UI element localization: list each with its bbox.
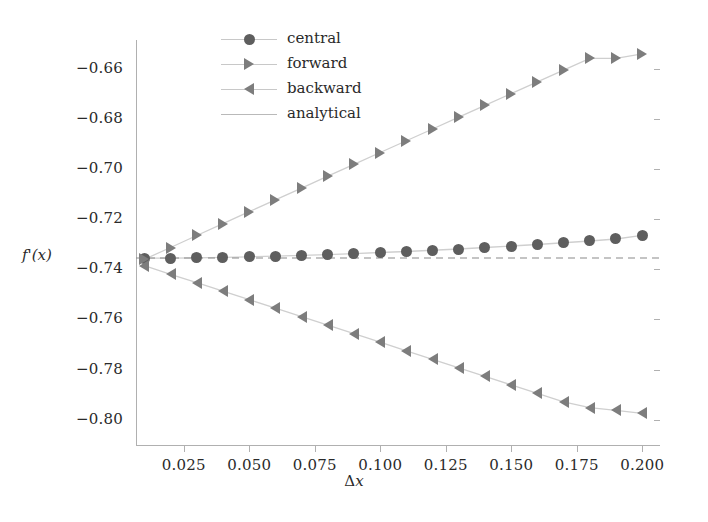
y-tick-label: −0.80: [55, 410, 123, 428]
data-point-central: [270, 251, 281, 262]
x-tick: [511, 446, 512, 452]
data-point-backward: [297, 311, 307, 323]
x-tick: [577, 446, 578, 452]
y-tick-label: −0.66: [55, 59, 123, 77]
data-point-backward: [428, 353, 438, 365]
data-point-forward: [585, 52, 595, 64]
y-tick-label: −0.78: [55, 360, 123, 378]
data-point-backward: [166, 268, 176, 280]
data-point-forward: [323, 170, 333, 182]
data-point-backward: [270, 302, 280, 314]
data-point-backward: [139, 260, 149, 272]
data-point-forward: [192, 229, 202, 241]
data-point-forward: [506, 88, 516, 100]
x-tick: [446, 446, 447, 452]
data-point-forward: [166, 242, 176, 254]
data-point-backward: [637, 407, 647, 419]
y-tick-label: −0.74: [55, 259, 123, 277]
data-point-backward: [323, 319, 333, 331]
x-axis-label-delta: Δ: [344, 472, 355, 490]
x-tick: [380, 446, 381, 452]
x-tick: [249, 446, 250, 452]
data-point-backward: [480, 370, 490, 382]
data-point-central: [244, 251, 255, 262]
data-point-forward: [349, 158, 359, 170]
data-point-forward: [218, 218, 228, 230]
x-axis-label-variable: x: [355, 472, 363, 490]
data-point-forward: [375, 147, 385, 159]
data-point-central: [375, 247, 386, 258]
data-point-backward: [506, 379, 516, 391]
plot-area: [136, 40, 660, 446]
data-point-central: [532, 239, 543, 250]
data-point-central: [401, 246, 412, 257]
x-tick: [642, 446, 643, 452]
data-point-forward: [244, 206, 254, 218]
data-point-backward: [401, 345, 411, 357]
data-point-forward: [532, 76, 542, 88]
y-tick-label: −0.68: [55, 109, 123, 127]
data-point-backward: [532, 387, 542, 399]
x-tick: [184, 446, 185, 452]
data-point-backward: [585, 402, 595, 414]
y-axis-label: f'(x): [22, 246, 52, 264]
data-point-forward: [297, 182, 307, 194]
data-point-forward: [454, 111, 464, 123]
data-point-central: [506, 241, 517, 252]
data-point-forward: [480, 99, 490, 111]
data-point-forward: [428, 123, 438, 135]
data-point-backward: [349, 328, 359, 340]
y-tick-label: −0.76: [55, 309, 123, 327]
figure: f'(x) Δx centralforwardbackwardanalytica…: [0, 0, 708, 522]
data-point-forward: [559, 64, 569, 76]
data-point-backward: [375, 336, 385, 348]
y-tick-label: −0.70: [55, 159, 123, 177]
data-point-forward: [401, 135, 411, 147]
y-tick-label: −0.72: [55, 209, 123, 227]
data-point-backward: [559, 396, 569, 408]
x-tick-label: 0.200: [602, 456, 682, 474]
data-point-central: [296, 250, 307, 261]
data-point-central: [453, 244, 464, 255]
x-tick: [315, 446, 316, 452]
data-point-backward: [611, 404, 621, 416]
data-point-central: [165, 253, 176, 264]
data-point-backward: [454, 362, 464, 374]
data-point-forward: [637, 48, 647, 60]
data-point-central: [637, 230, 648, 241]
x-axis-label: Δx: [0, 472, 708, 490]
data-point-backward: [218, 285, 228, 297]
data-point-central: [427, 245, 438, 256]
data-point-forward: [270, 194, 280, 206]
data-point-backward: [244, 294, 254, 306]
data-point-backward: [192, 277, 202, 289]
data-point-forward: [611, 52, 621, 64]
series-lines: [136, 40, 660, 446]
